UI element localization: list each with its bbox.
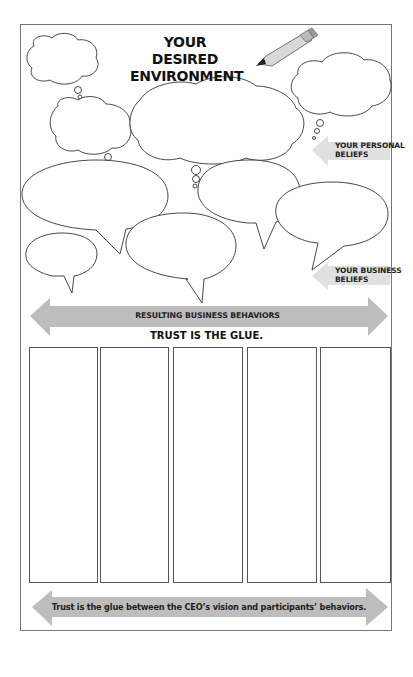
thought-cloud-top-left[interactable] bbox=[27, 33, 98, 84]
thought-bubble-dot bbox=[192, 166, 201, 175]
footer-label: Trust is the glue between the CEO’s visi… bbox=[44, 602, 374, 612]
label-line: BELIEFS bbox=[335, 150, 405, 159]
behavior-column-3[interactable] bbox=[173, 347, 243, 583]
title-line-2: ENVIRONMENT bbox=[130, 68, 240, 85]
thought-cloud-right[interactable] bbox=[291, 53, 391, 116]
thought-bubble-dot bbox=[317, 120, 324, 127]
speech-bubble-left-small[interactable] bbox=[26, 233, 97, 293]
thought-bubble-dot bbox=[105, 154, 112, 161]
personal-beliefs-label: YOUR PERSONAL BELIEFS bbox=[335, 141, 405, 159]
behavior-column-5[interactable] bbox=[320, 347, 391, 583]
thought-cloud-left-middle[interactable] bbox=[50, 97, 131, 155]
thought-bubble-dot bbox=[313, 137, 316, 140]
behavior-column-2[interactable] bbox=[100, 347, 169, 583]
behaviors-label: RESULTING BUSINESS BEHAVIORS bbox=[40, 311, 375, 320]
trust-caption: TRUST IS THE GLUE. bbox=[0, 330, 413, 341]
page-title: YOUR DESIRED ENVIRONMENT bbox=[130, 34, 240, 85]
pencil-icon bbox=[256, 28, 318, 66]
label-line: YOUR BUSINESS bbox=[335, 266, 402, 275]
business-beliefs-label: YOUR BUSINESS BELIEFS bbox=[335, 266, 402, 284]
thought-bubble-dot bbox=[193, 176, 200, 183]
speech-bubble-center[interactable] bbox=[126, 213, 236, 303]
thought-bubble-dot bbox=[75, 87, 82, 94]
thought-bubble-dot bbox=[193, 184, 197, 188]
speech-bubble-right[interactable] bbox=[276, 182, 388, 270]
title-line-1: YOUR DESIRED bbox=[130, 34, 240, 68]
thought-cloud-center[interactable] bbox=[130, 77, 304, 164]
behavior-column-1[interactable] bbox=[29, 347, 98, 583]
label-line: BELIEFS bbox=[335, 275, 402, 284]
label-line: YOUR PERSONAL bbox=[335, 141, 405, 150]
thought-bubble-dot bbox=[315, 129, 320, 134]
behavior-column-4[interactable] bbox=[247, 347, 317, 583]
